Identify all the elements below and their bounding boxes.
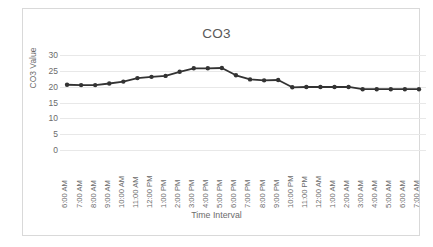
chart-container: CO3 CO3 Value 302520151050 6:00 AM7:00 A… [0,0,433,247]
data-point-marker [375,87,379,91]
x-axis-tick-label: 2:00 AM [342,152,352,208]
plot-area [60,55,426,150]
y-axis-tick-label: 10 [49,114,58,123]
data-point-marker [135,76,139,80]
data-point-marker [79,83,83,87]
x-axis-tick-label: 11:00 PM [300,152,310,208]
x-axis-tick-label: 4:00 PM [201,152,211,208]
x-axis-title: Time Interval [0,210,433,220]
x-axis-tick-label: 10:00 PM [286,152,296,208]
x-axis-tick-label: 6:00 AM [60,152,70,208]
data-point-marker [149,75,153,79]
data-point-marker [276,78,280,82]
data-point-marker [290,85,294,89]
x-axis-tick-label: 3:00 PM [187,152,197,208]
data-point-marker [262,78,266,82]
y-axis-tick-label: 25 [49,67,58,76]
series-polyline [67,68,419,89]
y-axis-tick-label: 30 [49,51,58,60]
x-axis-tick-labels: 6:00 AM7:00 AM8:00 AM9:00 AM10:00 AM11:0… [60,152,426,208]
data-point-marker [304,85,308,89]
data-point-marker [206,66,210,70]
data-point-marker [332,85,336,89]
data-point-marker [121,79,125,83]
y-axis-tick-label: 20 [49,82,58,91]
data-point-marker [318,85,322,89]
data-point-marker [163,74,167,78]
x-axis-tick-label: 7:00 AM [75,152,85,208]
data-point-marker [417,87,421,91]
data-point-marker [346,85,350,89]
data-point-marker [360,87,364,91]
series-line [60,55,426,150]
y-axis-title: CO3 Value [28,28,40,108]
x-axis-tick-label: 5:00 PM [215,152,225,208]
x-axis-tick-label: 7:00 AM [412,152,422,208]
y-axis-tick-label: 15 [49,98,58,107]
y-axis-tick-labels: 302520151050 [40,55,58,150]
x-axis-tick-label: 1:00 AM [328,152,338,208]
x-axis-tick-label: 8:00 PM [258,152,268,208]
data-point-marker [93,83,97,87]
data-point-marker [389,87,393,91]
x-axis-tick-label: 3:00 AM [356,152,366,208]
x-axis-tick-label: 4:00 AM [370,152,380,208]
data-point-marker [65,83,69,87]
x-axis-tick-label: 6:00 AM [398,152,408,208]
data-point-marker [403,87,407,91]
x-axis-tick-label: 12:00 AM [314,152,324,208]
x-axis-tick-label: 9:00 PM [272,152,282,208]
chart-title: CO3 [0,26,433,41]
y-axis-tick-label: 0 [53,146,58,155]
data-point-marker [107,81,111,85]
data-point-marker [248,77,252,81]
data-point-marker [234,73,238,77]
x-axis-tick-label: 11:00 AM [131,152,141,208]
x-axis-tick-label: 10:00 AM [117,152,127,208]
x-axis-tick-label: 9:00 AM [103,152,113,208]
data-point-marker [177,70,181,74]
y-axis-tick-label: 5 [53,130,58,139]
x-axis-tick-label: 1:00 PM [159,152,169,208]
x-axis-tick-label: 8:00 AM [89,152,99,208]
data-point-marker [192,66,196,70]
x-axis-tick-label: 12:00 PM [145,152,155,208]
gridline [60,150,426,151]
x-axis-tick-label: 7:00 PM [243,152,253,208]
data-point-marker [220,66,224,70]
x-axis-tick-label: 2:00 PM [173,152,183,208]
x-axis-tick-label: 6:00 PM [229,152,239,208]
x-axis-tick-label: 5:00 AM [384,152,394,208]
